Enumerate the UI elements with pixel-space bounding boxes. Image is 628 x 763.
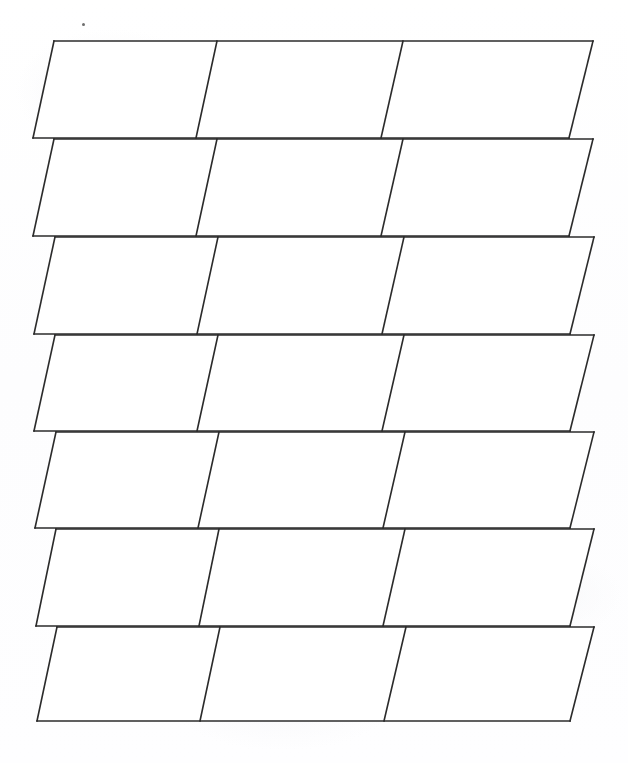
grid-cell-r5-c1	[35, 432, 219, 528]
stray-pencil-dot-icon	[82, 23, 85, 26]
grid-cell-r5-c3	[383, 432, 594, 528]
grid-cell-r5-c2	[198, 432, 405, 528]
grid-cell-r2-c2	[196, 139, 403, 236]
grid-cell-r7-c2	[200, 627, 406, 721]
grid-cell-r2-c1	[33, 139, 217, 236]
grid-cell-r1-c1	[33, 41, 217, 138]
grid-cell-r4-c1	[34, 335, 218, 431]
grid-cell-r6-c1	[36, 529, 219, 626]
worksheet-page	[0, 0, 628, 763]
grid-cell-r2-c3	[381, 139, 593, 236]
grid-cell-r7-c1	[37, 627, 220, 721]
grid-cell-r1-c3	[381, 41, 593, 138]
grid-cell-r3-c1	[34, 237, 218, 334]
parallelogram-grid	[0, 0, 628, 763]
grid-cell-r3-c3	[382, 237, 594, 334]
grid-cell-faces	[33, 41, 594, 721]
grid-cell-r6-c2	[199, 529, 405, 626]
grid-cell-r6-c3	[383, 529, 594, 626]
grid-cell-r4-c3	[382, 335, 594, 431]
grid-cell-r1-c2	[196, 41, 403, 138]
grid-cell-r4-c2	[197, 335, 404, 431]
grid-cell-r7-c3	[384, 627, 594, 721]
grid-cell-r3-c2	[197, 237, 404, 334]
